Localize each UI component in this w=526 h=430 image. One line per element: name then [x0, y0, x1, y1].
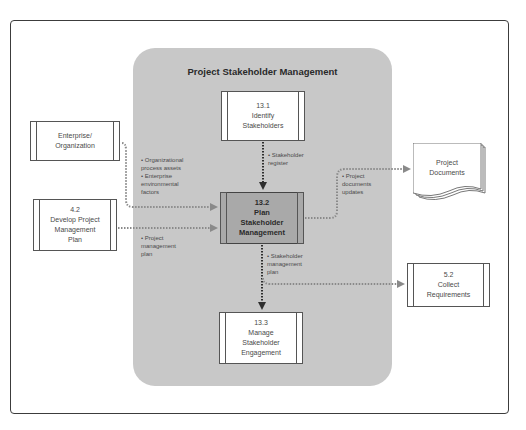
enterprise-organization-box: Enterprise/ Organization [30, 121, 120, 161]
process-13-1-label: 13.1 Identify Stakeholders [235, 101, 292, 131]
process-13-2-label: 13.2 Plan Stakeholder Management [231, 198, 293, 238]
enterprise-organization-label: Enterprise/ Organization [47, 131, 103, 151]
project-documents-label: Project Documents [413, 158, 481, 178]
flow-label-project-management-plan: • Project management plan [141, 234, 176, 258]
process-13-3-box: 13.3 Manage Stakeholder Engagement [219, 312, 303, 364]
process-13-2-box: 13.2 Plan Stakeholder Management [220, 192, 304, 244]
flow-label-project-documents-updates: • Project documents updates [342, 172, 371, 196]
flow-label-stakeholder-management-plan: • Stakeholder management plan [267, 252, 303, 276]
flow-label-enterprise-inputs: • Organizational process assets • Enterp… [141, 156, 183, 196]
flow-label-stakeholder-register: • Stakeholder register [268, 151, 304, 167]
process-5-2-box: 5.2 Collect Requirements [407, 263, 490, 307]
process-13-1-box: 13.1 Identify Stakeholders [221, 91, 305, 141]
flow-13-2-to-5-2 [263, 278, 403, 284]
process-13-3-label: 13.3 Manage Stakeholder Engagement [233, 318, 289, 358]
process-5-2-label: 5.2 Collect Requirements [419, 270, 479, 300]
process-4-2-label: 4.2 Develop Project Management Plan [42, 205, 107, 245]
process-4-2-box: 4.2 Develop Project Management Plan [33, 199, 117, 251]
